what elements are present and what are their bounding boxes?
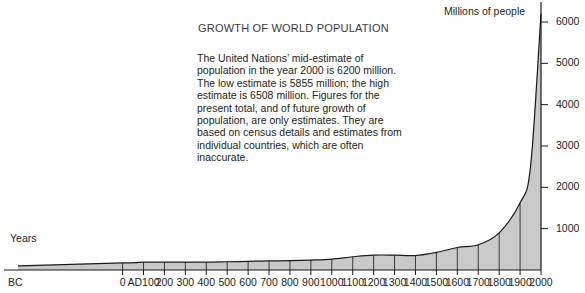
chart-page: GROWTH OF WORLD POPULATION The United Na…: [0, 0, 585, 293]
x-tick-label: 1100: [341, 276, 364, 288]
x-tick-marks-group: [123, 270, 541, 275]
y-tick-label: 3000: [556, 139, 579, 151]
x-tick-label: 0: [120, 276, 126, 288]
y-tick-label: 5000: [556, 56, 579, 68]
x-tick-label: 1000: [320, 276, 343, 288]
y-tick-label: 1000: [556, 222, 579, 234]
y-tick-marks-group: [541, 22, 548, 229]
y-tick-label: 6000: [556, 15, 579, 27]
x-tick-label: 200: [156, 276, 174, 288]
x-tick-label: 1400: [404, 276, 427, 288]
x-tick-label: 300: [177, 276, 195, 288]
x-tick-label: 800: [281, 276, 299, 288]
population-area-chart: [0, 0, 585, 293]
area-fill-group: [18, 14, 541, 270]
axis-lines-group: [4, 2, 541, 270]
x-tick-label: 2000: [529, 276, 552, 288]
y-tick-label: 4000: [556, 98, 579, 110]
x-tick-label: BC: [8, 276, 23, 288]
x-tick-label: 1500: [425, 276, 448, 288]
population-curve: [18, 14, 541, 266]
x-tick-label: 1700: [467, 276, 490, 288]
curve-line-group: [18, 14, 541, 266]
x-tick-label: 500: [218, 276, 236, 288]
x-tick-label: 1800: [487, 276, 510, 288]
x-tick-label: 1300: [383, 276, 406, 288]
population-area-fill: [18, 14, 541, 270]
x-tick-label: 1200: [362, 276, 385, 288]
x-tick-label: 600: [239, 276, 257, 288]
x-tick-label: 1600: [446, 276, 469, 288]
y-tick-label: 2000: [556, 180, 579, 192]
x-tick-label: 700: [260, 276, 278, 288]
x-tick-label: 400: [198, 276, 216, 288]
x-tick-label: 900: [302, 276, 320, 288]
x-tick-label: 1900: [508, 276, 531, 288]
